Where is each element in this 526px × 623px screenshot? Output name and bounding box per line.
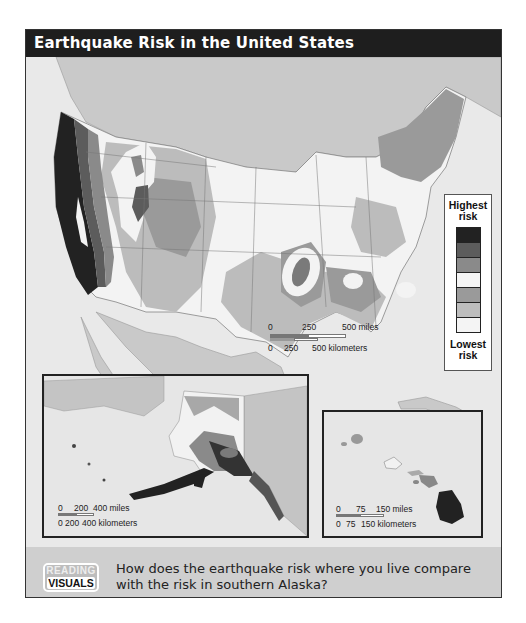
legend-highest-label: Highest risk (445, 200, 491, 222)
badge-reading-label: READING (45, 565, 97, 577)
legend-swatch-1 (457, 228, 480, 243)
risk-legend: Highest risk Lowest risk (444, 194, 492, 371)
scale-km-250: 250 (284, 343, 298, 353)
legend-swatches (456, 227, 481, 333)
hawaii-scale-km-0: 0 (336, 519, 341, 529)
alaska-scale-km-200: 200 (65, 518, 79, 528)
alaska-scale-miles-200: 200 (74, 503, 88, 513)
alaska-scale-miles-0: 0 (58, 503, 63, 513)
legend-swatch-4 (457, 273, 480, 288)
hawaii-inset: 0 75 150 miles 0 75 150 kilometers (322, 410, 483, 538)
scale-miles-250: 250 (302, 322, 316, 332)
hawaii-scale-km-75: 75 (346, 519, 355, 529)
main-map: Highest risk Lowest risk 0 250 500 miles… (26, 57, 501, 547)
alaska-inset: 0 200 400 miles 0 200 400 kilometers (42, 374, 309, 538)
hawaii-scale-miles-0: 0 (336, 504, 341, 514)
map-figure: Earthquake Risk in the United States (25, 29, 502, 598)
scale-km-0: 0 (268, 343, 273, 353)
legend-swatch-5 (457, 288, 480, 303)
reading-visuals-footer: READING VISUALS How does the earthquake … (26, 547, 501, 597)
reading-visuals-question: How does the earthquake risk where you l… (116, 561, 486, 593)
legend-lowest-label: Lowest risk (445, 339, 491, 361)
main-scale-bar: 0 250 500 miles 0 250 500 kilometers (268, 322, 428, 362)
legend-swatch-6 (457, 303, 480, 318)
hawaii-scale-bar: 0 75 150 miles 0 75 150 kilometers (336, 504, 436, 534)
legend-swatch-2 (457, 243, 480, 258)
alaska-scale-km-400: 400 kilometers (82, 518, 137, 528)
alaska-scale-miles-400: 400 miles (93, 503, 129, 513)
alaska-scale-km-0: 0 (58, 518, 63, 528)
scale-miles-0: 0 (268, 322, 273, 332)
alaska-scale-bar: 0 200 400 miles 0 200 400 kilometers (58, 503, 168, 533)
scale-miles-500: 500 miles (342, 322, 378, 332)
badge-visuals-label: VISUALS (47, 577, 95, 589)
hawaii-scale-km-150: 150 kilometers (361, 519, 416, 529)
hawaii-scale-miles-75: 75 (356, 504, 365, 514)
reading-visuals-badge: READING VISUALS (43, 563, 99, 592)
hawaii-scale-miles-150: 150 miles (376, 504, 412, 514)
legend-swatch-7 (457, 318, 480, 332)
map-title: Earthquake Risk in the United States (26, 30, 501, 57)
legend-swatch-3 (457, 258, 480, 273)
scale-km-500: 500 kilometers (312, 343, 367, 353)
